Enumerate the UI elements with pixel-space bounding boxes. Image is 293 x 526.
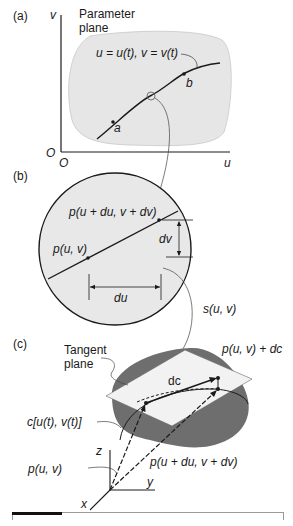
curve-equation: u = u(t), v = v(t): [96, 46, 178, 60]
du-label: du: [114, 291, 128, 305]
diagram-canvas: (a) v Parameter plane u = u(t), v = v(t)…: [0, 0, 293, 526]
axis-y-label: y: [146, 475, 154, 489]
dc-text: dc: [168, 374, 181, 388]
dv-label: dv: [159, 232, 173, 246]
point-p-dot: [86, 256, 90, 260]
point-pd-dot: [157, 218, 161, 222]
point-pd-label: p(u + du, v + dv): [68, 205, 156, 219]
axis-x: [90, 490, 110, 510]
parameter-plane-title-1: Parameter: [79, 7, 135, 21]
surface-label: s(u, v): [203, 302, 236, 316]
panel-a-label: (a): [13, 9, 28, 23]
axis-x-label: x: [80, 497, 88, 511]
point-p-label: p(u, v): [52, 242, 87, 256]
dc-start-dot: [144, 401, 148, 405]
curve-c-leader: [97, 421, 121, 428]
axis-u-label: u: [224, 156, 231, 170]
p-uv-label: p(u, v): [27, 462, 62, 476]
tangent-plane-label-1: Tangent: [64, 343, 107, 357]
p-plus-dc-label: p(u, v) + dc: [221, 342, 282, 356]
dc-label: dc: [168, 374, 181, 388]
axis-z-label: z: [95, 444, 102, 458]
caption-bar-accent: [12, 512, 62, 515]
p-uduvdv-label: p(u + du, v + dv): [149, 455, 237, 469]
point-a-label: a: [114, 121, 121, 135]
panel-c: (c) Tangent plane dc p(u, v) + dc c[u(t)…: [13, 337, 282, 511]
panel-a: (a) v Parameter plane u = u(t), v = v(t)…: [13, 7, 231, 190]
curve-c-label: c[u(t), v(t)]: [27, 415, 82, 429]
p-uv-leader: [88, 467, 117, 474]
caption-bar: [12, 512, 284, 520]
origin-left-label: O: [46, 146, 55, 160]
origin-bottom-label: O: [59, 156, 68, 170]
panel-b: (b) p(u + du, v + dv) p(u, v) dv du s(u,…: [13, 169, 236, 365]
axis-v-label: v: [50, 8, 57, 22]
point-b-label: b: [186, 76, 193, 90]
panel-b-label: (b): [13, 169, 28, 183]
tangent-plane-label-2: plane: [64, 357, 94, 371]
panel-c-label: (c): [13, 337, 27, 351]
parameter-plane-title-2: plane: [79, 21, 109, 35]
